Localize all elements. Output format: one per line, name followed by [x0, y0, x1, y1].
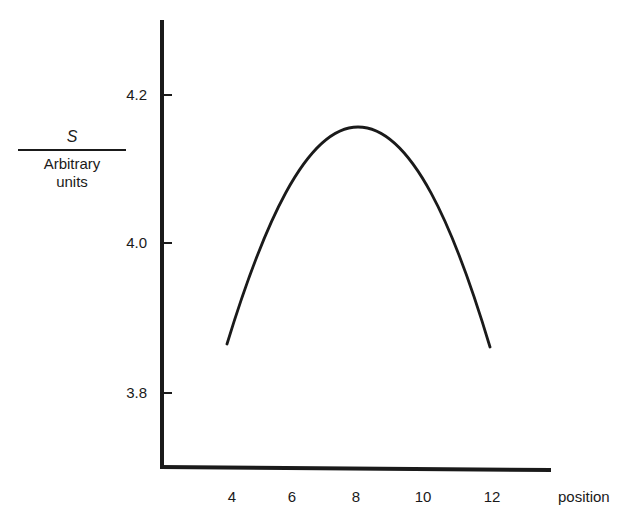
chart: S Arbitrary units 4.2 4.0 3.8 4 6 8 10 1… [0, 0, 624, 512]
y-tick-label: 3.8 [107, 384, 147, 401]
y-axis-label: S Arbitrary units [18, 127, 126, 191]
x-axis-label: position [558, 488, 610, 505]
x-tick-label: 12 [477, 488, 507, 505]
x-tick-label: 10 [408, 488, 438, 505]
y-tick-label: 4.0 [107, 234, 147, 251]
y-axis-units-line1: Arbitrary [18, 155, 126, 173]
data-curve [227, 127, 490, 347]
y-axis-variable: S [18, 127, 126, 147]
x-tick-label: 4 [217, 488, 247, 505]
y-tick-label: 4.2 [107, 86, 147, 103]
fraction-bar [18, 149, 126, 151]
x-axis [160, 467, 551, 470]
plot-area [0, 0, 624, 512]
y-axis-units-line2: units [18, 173, 126, 191]
x-tick-label: 6 [277, 488, 307, 505]
x-tick-label: 8 [341, 488, 371, 505]
